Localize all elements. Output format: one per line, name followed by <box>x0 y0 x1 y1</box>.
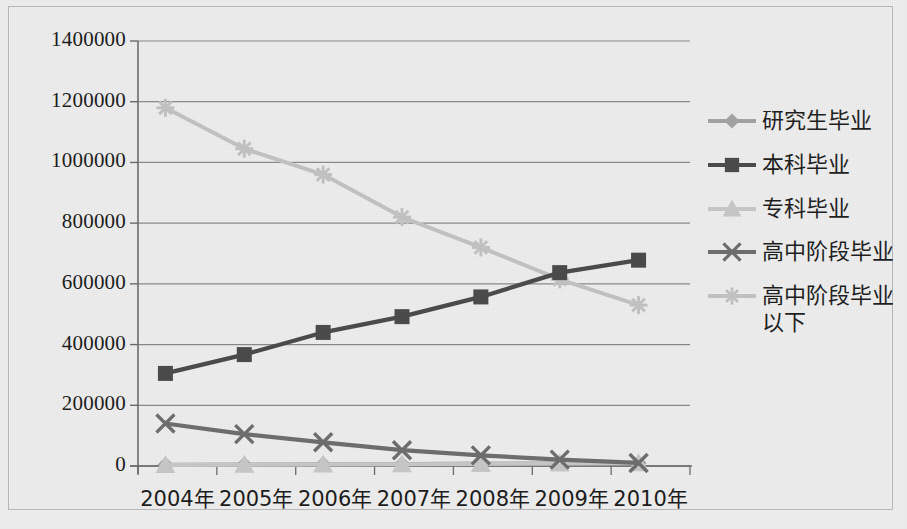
marker-diamond <box>724 113 739 128</box>
legend-marker-square-icon <box>706 152 758 178</box>
marker-square <box>395 309 410 324</box>
legend-item-label: 研究生毕业 <box>762 108 872 135</box>
legend-item[interactable]: 研究生毕业 <box>706 108 902 135</box>
series-star <box>156 99 647 314</box>
legend-marker-triangle-icon <box>706 196 758 222</box>
legend-item[interactable]: 专科毕业 <box>706 196 902 223</box>
marker-square <box>473 289 488 304</box>
legend-item[interactable]: 高中阶段毕业 以下 <box>706 283 902 337</box>
data-series-layer <box>155 99 648 473</box>
marker-square <box>631 253 646 268</box>
legend-item[interactable]: 本科毕业 <box>706 152 902 179</box>
gridlines <box>138 41 690 466</box>
legend-marker-cross-icon <box>706 239 758 265</box>
marker-square <box>237 347 252 362</box>
chart-legend: 研究生毕业本科毕业专科毕业高中阶段毕业高中阶段毕业 以下 <box>706 108 902 354</box>
y-axis-ticks <box>130 41 138 466</box>
chart-screenshot: 1400000120000010000008000006000004000002… <box>0 0 907 529</box>
marker-square <box>316 325 331 340</box>
marker-square <box>552 265 567 280</box>
series-triangle <box>155 453 648 473</box>
legend-item-label: 专科毕业 <box>762 196 850 223</box>
series-square <box>158 253 646 381</box>
marker-square <box>158 366 173 381</box>
series-line <box>165 108 638 305</box>
legend-marker-diamond-icon <box>706 108 758 134</box>
legend-marker-star-icon <box>706 283 758 309</box>
legend-item[interactable]: 高中阶段毕业 <box>706 239 902 266</box>
marker-square <box>725 158 739 172</box>
axis-lines <box>130 41 692 474</box>
legend-item-label: 高中阶段毕业 <box>762 239 894 266</box>
legend-item-label: 高中阶段毕业 以下 <box>762 283 894 337</box>
x-axis-ticks <box>138 466 690 475</box>
legend-item-label: 本科毕业 <box>762 152 850 179</box>
